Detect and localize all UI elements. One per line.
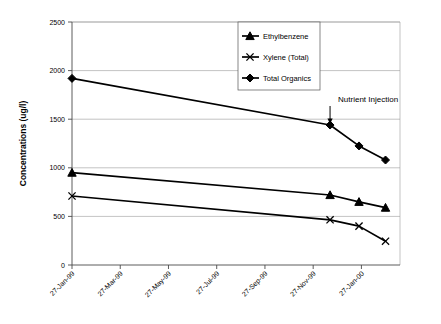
ytick-label-2500: 2500	[49, 19, 65, 26]
legend-label-total-organics: Total Organics	[263, 74, 311, 83]
xtick-label-3: 27-Jul-99	[195, 270, 221, 296]
xtick-label-1: 27-Mar-99	[96, 270, 124, 298]
xtick-label-2: 27-May-99	[144, 270, 173, 299]
legend-label-ethylbenzene: Ethylbenzene	[263, 32, 308, 41]
xtick-label-4: 27-Sep-99	[241, 270, 270, 299]
ytick-label-0: 0	[61, 262, 65, 269]
annotation-label-nutrient-injection: Nutrient Injection	[338, 95, 398, 104]
plot-background	[72, 22, 400, 265]
concentrations-line-chart: 0500100015002000250027-Jan-9927-Mar-9927…	[0, 0, 441, 324]
xtick-label-6: 27-Jan-00	[338, 270, 365, 297]
ytick-label-1000: 1000	[49, 164, 65, 171]
legend-label-xylene-total: Xylene (Total)	[263, 53, 309, 62]
ytick-label-2000: 2000	[49, 67, 65, 74]
y-axis-title: Concentrations (ug/l)	[18, 101, 28, 187]
ytick-label-500: 500	[53, 213, 65, 220]
ytick-label-1500: 1500	[49, 116, 65, 123]
chart-container: 0500100015002000250027-Jan-9927-Mar-9927…	[0, 0, 441, 324]
xtick-label-0: 27-Jan-99	[48, 270, 75, 297]
xtick-label-5: 27-Nov-99	[289, 270, 317, 298]
